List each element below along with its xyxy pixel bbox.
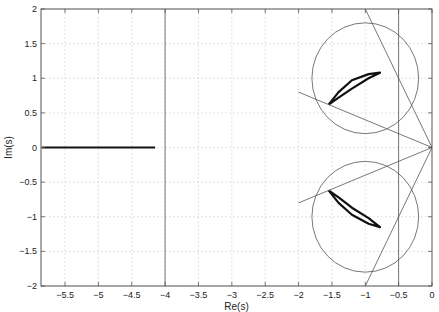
x-tick-label: −2 <box>293 290 303 300</box>
x-tick-label: −1 <box>360 290 370 300</box>
y-tick-label: −1 <box>27 212 37 222</box>
x-axis-label: Re(s) <box>224 301 248 312</box>
damping-line-upper-shallow <box>299 92 432 147</box>
root-locus-chart: −5.5−5−4.5−4−3.5−3−2.5−2−1.5−1−0.50 −2−1… <box>0 0 439 312</box>
x-tick-label: −3.5 <box>190 290 208 300</box>
y-tick-label: 2 <box>32 4 37 14</box>
y-tick-label: 0 <box>32 143 37 153</box>
upper-pole-cluster <box>329 73 380 105</box>
x-tick-label: −4.5 <box>123 290 141 300</box>
x-tick-label: 0 <box>429 290 434 300</box>
x-tick-label: −4 <box>160 290 170 300</box>
x-tick-label: −5 <box>93 290 103 300</box>
y-axis-label: Im(s) <box>3 136 14 159</box>
x-tick-label: −5.5 <box>56 290 74 300</box>
x-tick-label: −3 <box>227 290 237 300</box>
y-tick-label: 1.5 <box>24 39 37 49</box>
x-tick-labels: −5.5−5−4.5−4−3.5−3−2.5−2−1.5−1−0.50 <box>56 290 434 300</box>
y-tick-label: −2 <box>27 281 37 291</box>
y-tick-labels: −2−1.5−1−0.500.511.52 <box>19 4 37 291</box>
lower-pole-cluster <box>329 190 380 227</box>
y-tick-label: 0.5 <box>24 108 37 118</box>
x-tick-label: −1.5 <box>323 290 341 300</box>
x-tick-label: −0.5 <box>390 290 408 300</box>
y-tick-label: −1.5 <box>19 246 37 256</box>
x-tick-label: −2.5 <box>256 290 274 300</box>
y-tick-label: −0.5 <box>19 177 37 187</box>
y-tick-label: 1 <box>32 73 37 83</box>
damping-line-lower-shallow <box>299 148 432 203</box>
